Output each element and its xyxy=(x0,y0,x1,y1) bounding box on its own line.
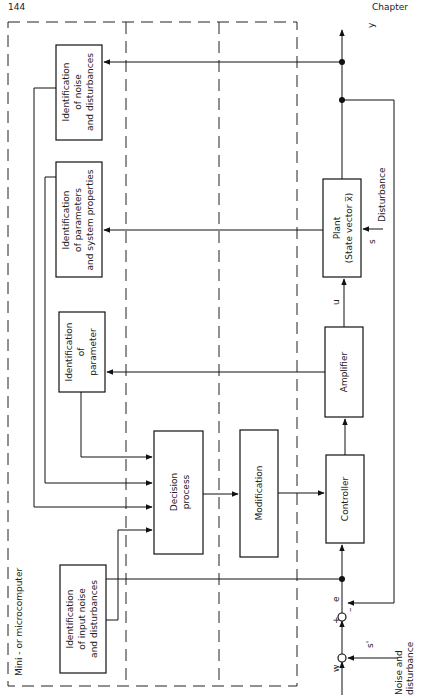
svg-text:and disturbances: and disturbances xyxy=(85,53,95,131)
sign-plus: + xyxy=(331,616,341,624)
svg-text:process: process xyxy=(181,474,191,509)
region-label: Mini - or microcomputer xyxy=(14,568,24,676)
computer-region xyxy=(8,22,297,686)
svg-text:of: of xyxy=(76,347,86,357)
label-modification: Modification xyxy=(254,466,264,521)
svg-text:Modification: Modification xyxy=(254,466,264,521)
svg-text:of input noise: of input noise xyxy=(77,588,87,650)
signal-u: u xyxy=(331,299,341,305)
svg-text:and system properties: and system properties xyxy=(85,169,95,270)
label-amplifier: Amplifier xyxy=(339,351,349,392)
svg-text:Controller: Controller xyxy=(340,477,350,522)
signal-w: w xyxy=(331,665,341,672)
svg-text:Decision: Decision xyxy=(169,473,179,511)
sign-minus: – xyxy=(345,607,355,612)
svg-text:Identification: Identification xyxy=(61,190,71,249)
svg-text:Plant: Plant xyxy=(332,216,342,239)
svg-text:Noise and: Noise and xyxy=(394,650,404,695)
svg-text:disturbance: disturbance xyxy=(405,641,415,695)
svg-text:Identification: Identification xyxy=(64,322,74,381)
chapter-label: Chapter xyxy=(372,2,408,12)
block-plant xyxy=(323,179,361,277)
svg-text:of parameters: of parameters xyxy=(73,188,83,252)
signal-e: e xyxy=(331,596,341,602)
svg-text:Identification: Identification xyxy=(61,62,71,121)
svg-text:(State vector x̅): (State vector x̅) xyxy=(344,193,354,263)
signal-s: s xyxy=(367,239,377,244)
label-controller: Controller xyxy=(340,477,350,522)
noise-disturbance-label: Noise and disturbance xyxy=(394,641,415,695)
svg-text:and disturbances: and disturbances xyxy=(89,580,99,658)
svg-text:Amplifier: Amplifier xyxy=(339,351,349,392)
signal-y: y xyxy=(366,22,376,28)
signal-s-prime: s' xyxy=(365,641,375,648)
label-id-input: Identification of input noise and distur… xyxy=(65,580,99,658)
svg-text:Identification: Identification xyxy=(65,589,75,648)
summing-point-noise xyxy=(338,654,346,662)
svg-text:of noise: of noise xyxy=(73,74,83,110)
svg-text:parameter: parameter xyxy=(88,328,98,376)
page-number: 144 xyxy=(8,2,25,12)
disturbance-label: Disturbance xyxy=(377,167,387,222)
control-system-diagram: 144 Chapter Mini - or microcomputer Iden… xyxy=(0,0,424,698)
